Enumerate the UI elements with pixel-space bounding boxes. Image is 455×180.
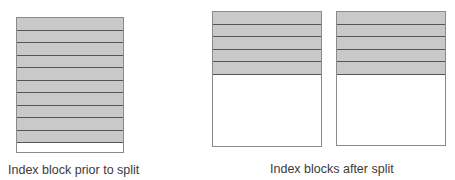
index-entry-row — [17, 93, 123, 106]
index-entry-row — [213, 62, 321, 75]
rows-container — [17, 18, 123, 143]
index-entry-row — [17, 18, 123, 31]
caption-after: Index blocks after split — [270, 162, 394, 176]
index-entry-row — [213, 25, 321, 38]
index-entry-row — [17, 31, 123, 44]
index-block-after-1 — [212, 11, 322, 147]
index-entry-row — [337, 37, 445, 50]
index-entry-row — [337, 12, 445, 25]
index-entry-row — [17, 81, 123, 94]
index-entry-row — [17, 106, 123, 119]
index-entry-row — [17, 131, 123, 144]
index-entry-row — [17, 56, 123, 69]
index-entry-row — [213, 12, 321, 25]
index-entry-row — [17, 68, 123, 81]
rows-container — [213, 12, 321, 75]
index-entry-row — [213, 50, 321, 63]
caption-before: Index block prior to split — [8, 163, 139, 177]
index-entry-row — [17, 43, 123, 56]
index-entry-row — [337, 50, 445, 63]
index-entry-row — [213, 37, 321, 50]
index-entry-row — [17, 118, 123, 131]
index-block-before — [16, 17, 124, 153]
index-block-after-2 — [336, 11, 446, 146]
index-entry-row — [337, 25, 445, 38]
rows-container — [337, 12, 445, 75]
index-entry-row — [337, 62, 445, 75]
